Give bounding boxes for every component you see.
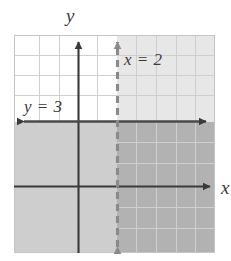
y-axis-label: y [66,6,74,25]
coordinate-plane-graph [0,0,231,261]
graph-figure: y x x = 2 y = 3 [0,0,231,261]
line-label-y-equals-3: y = 3 [24,98,63,115]
x-axis-label: x [221,178,229,197]
line-label-x-equals-2: x = 2 [124,51,163,68]
